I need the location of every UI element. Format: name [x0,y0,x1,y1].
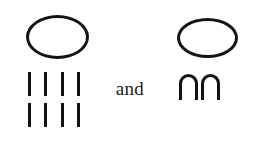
tally-row [28,72,80,96]
left-oval-icon [26,15,89,59]
conjunction-label: and [108,78,152,100]
tally-mark [61,103,64,127]
tally-mark [77,72,80,96]
arch-mark-icon [179,74,198,100]
tally-mark-rows [28,72,83,134]
tally-mark [77,103,80,127]
right-oval-icon [177,18,238,58]
left-symbol-group [20,8,100,136]
right-symbol-group [170,10,246,108]
tally-mark [28,72,31,96]
tally-row [28,103,80,127]
tally-mark [61,72,64,96]
tally-mark [44,72,47,96]
tally-mark [28,103,31,127]
arch-mark-icon [201,74,220,100]
figure-canvas: and [0,0,255,145]
arch-marks-row [179,74,220,100]
tally-mark [44,103,47,127]
